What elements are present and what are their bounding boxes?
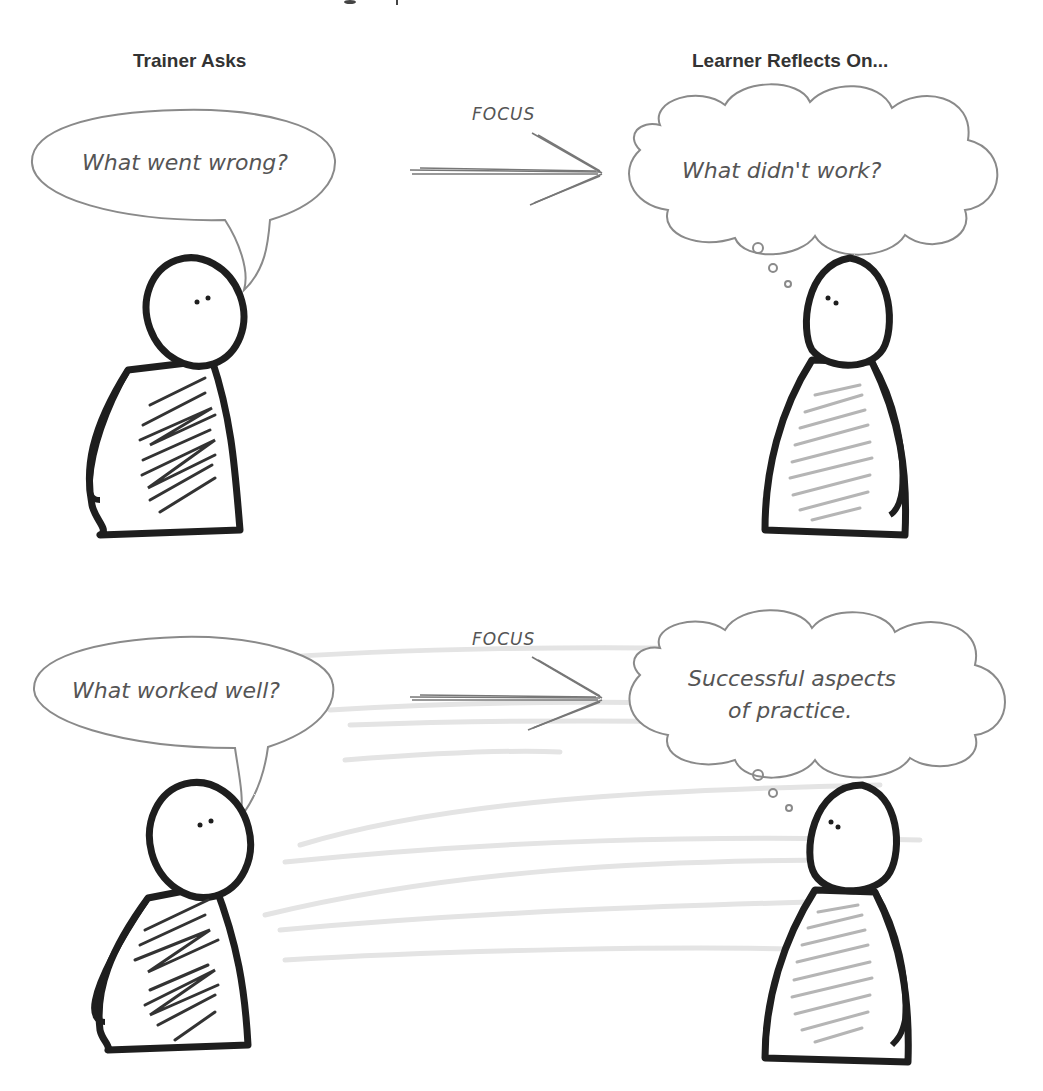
focus-label: FOCUS xyxy=(472,629,535,649)
learner-thought-line-1: Successful aspects xyxy=(688,666,896,691)
diagram-canvas: Trainer Asks Learner Reflects On... What… xyxy=(0,0,1043,1091)
panel-what-worked-well: What worked well? FOCUS Successful aspec… xyxy=(34,610,1005,1062)
panel-what-went-wrong: What went wrong? FOCUS What didn't work? xyxy=(32,84,997,535)
learner-thought-text: What didn't work? xyxy=(682,158,882,183)
focus-label: FOCUS xyxy=(472,104,535,124)
focus-arrow-icon xyxy=(410,133,602,205)
learner-figure xyxy=(765,785,908,1062)
learner-thought-cloud xyxy=(629,84,997,287)
trainer-figure xyxy=(94,771,263,1050)
trainer-question-text: What went wrong? xyxy=(82,150,288,175)
learner-figure xyxy=(765,258,906,535)
cropped-title-fragment xyxy=(344,0,398,5)
trainer-question-text: What worked well? xyxy=(72,678,280,703)
learner-thought-line-2: of practice. xyxy=(728,698,852,723)
trainer-figure xyxy=(89,244,259,535)
illustration: What went wrong? FOCUS What didn't work? xyxy=(0,0,1043,1091)
